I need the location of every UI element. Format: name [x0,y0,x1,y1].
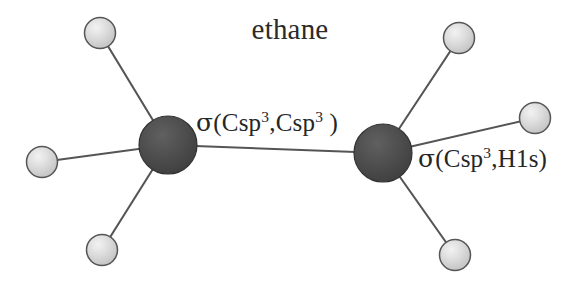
sigma-carbon-carbon-label: σ(Csp3,Csp3 ) [196,110,338,135]
sigma-cc-open: (Csp [213,109,261,136]
bond-group [42,33,535,255]
figure-title: ethane [0,14,580,44]
hydrogen-bottom-right-atom [440,240,471,271]
hydrogen-group [27,18,551,271]
hydrogen-right-atom [520,103,551,134]
bond-c1-c2 [168,145,383,153]
sigma-ch-open: (Csp [435,145,483,172]
sigma-symbol-cc: σ [196,108,213,137]
sigma-carbon-hydrogen-label: σ(Csp3,H1s) [418,146,547,171]
hydrogen-bottom-left-atom [87,235,118,266]
ethane-diagram: ethane σ(Csp3,Csp3 ) σ(Csp3,H1s) [0,0,580,285]
sigma-ch-rest: ,H1s) [491,145,547,172]
carbon-left-atom [139,116,197,174]
sigma-cc-close: ) [323,109,338,136]
sigma-cc-comma: ,Csp [269,109,315,136]
carbon-right-atom [354,124,412,182]
hydrogen-left-atom [27,147,58,178]
sigma-symbol-ch: σ [418,144,435,173]
sigma-cc-superscript-2: 3 [315,108,323,125]
